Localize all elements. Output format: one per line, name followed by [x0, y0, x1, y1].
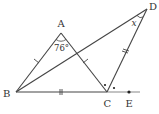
- tick-ab: [34, 59, 39, 63]
- label-d: D: [149, 1, 157, 12]
- tick-ac: [83, 59, 88, 63]
- point-e-dot: [127, 90, 130, 93]
- angle-arc-d: [137, 16, 143, 18]
- angle-x-label: x: [132, 18, 137, 28]
- angle-dot-dce: [113, 87, 115, 89]
- label-e: E: [126, 98, 133, 109]
- angle-dot-acd: [104, 84, 106, 86]
- label-c: C: [104, 98, 112, 109]
- label-a: A: [57, 18, 66, 29]
- angle-a-value: 76°: [54, 43, 69, 53]
- angle-arc-a: [56, 40, 66, 42]
- geometry-diagram: A B C D E 76° x: [0, 0, 159, 114]
- label-b: B: [3, 88, 10, 99]
